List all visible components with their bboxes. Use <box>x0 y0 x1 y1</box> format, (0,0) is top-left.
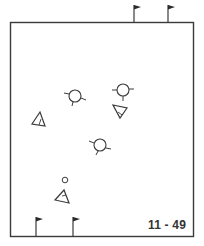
flag-icon <box>134 5 141 22</box>
circle-player-icon <box>64 90 86 106</box>
triangle-player-icon <box>32 112 45 126</box>
triangle-player-icon <box>55 190 69 203</box>
circle-player-icon <box>112 84 134 101</box>
field-boundary <box>11 23 194 237</box>
flag-icon <box>168 5 175 22</box>
triangle-marker <box>39 119 41 125</box>
triangle-marker <box>62 195 66 196</box>
triangle-player-icon <box>113 105 127 118</box>
ball-icon <box>62 177 68 183</box>
diagram-label: 11 - 49 <box>148 218 188 232</box>
flag-icon <box>36 217 43 237</box>
flag-icon <box>73 217 80 237</box>
circle-player-icon <box>89 139 111 155</box>
drill-diagram <box>0 0 204 246</box>
